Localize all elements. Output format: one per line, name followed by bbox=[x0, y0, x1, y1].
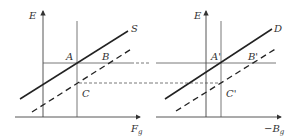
supply-curve-S bbox=[20, 31, 128, 99]
diagram-canvas: E S A B C Fg E D A' B' C' −Bg bbox=[0, 0, 297, 138]
left-panel: E S A B C Fg bbox=[15, 10, 150, 136]
point-A-prime: A' bbox=[210, 51, 221, 62]
point-A: A bbox=[65, 51, 73, 62]
left-y-axis-label: E bbox=[28, 10, 37, 21]
point-B-prime: B' bbox=[247, 51, 258, 62]
point-C: C bbox=[82, 88, 90, 99]
right-x-axis-label: −Bg bbox=[264, 123, 285, 136]
curve-label-S: S bbox=[131, 23, 138, 34]
demand-curve-shifted bbox=[176, 48, 277, 111]
demand-curve-D bbox=[165, 29, 272, 99]
supply-curve-shifted bbox=[32, 48, 133, 112]
right-panel: E D A' B' C' −Bg bbox=[150, 10, 285, 136]
left-x-axis-label: Fg bbox=[130, 123, 143, 136]
right-y-axis-label: E bbox=[193, 10, 202, 21]
curve-label-D: D bbox=[273, 23, 282, 34]
point-B: B bbox=[101, 51, 109, 62]
point-C-prime: C' bbox=[226, 88, 236, 99]
